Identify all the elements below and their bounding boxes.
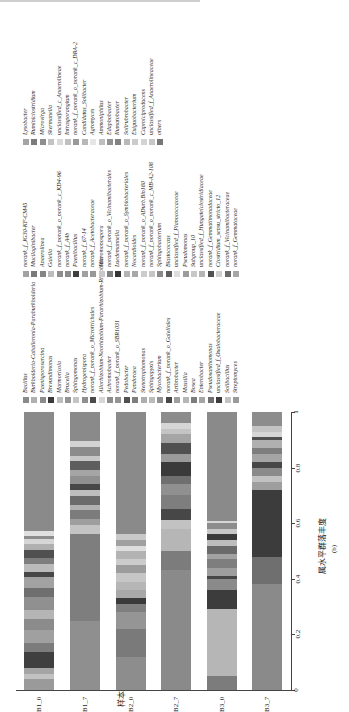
legend-swatch	[141, 139, 147, 145]
legend-label: Paenisporosarcina	[38, 348, 46, 393]
legend-label: unclassified_f_Planococcaceae	[172, 191, 180, 267]
bar-segment	[161, 434, 191, 442]
legend-swatch	[48, 397, 54, 403]
legend-label: Blastococcus	[164, 235, 172, 267]
bar-segment	[70, 447, 100, 456]
legend-swatch	[40, 139, 46, 145]
bar-segment	[24, 630, 54, 644]
legend-swatch	[233, 397, 239, 403]
legend-swatch	[23, 139, 29, 145]
legend-label: Paenibacillus	[71, 234, 79, 267]
bar-segment	[161, 529, 191, 551]
legend-label: norank_f_norank_o_Microtrichales	[88, 307, 96, 393]
legend-swatch	[73, 271, 79, 277]
legend-swatch	[31, 397, 37, 403]
legend-label: norank_f_norank_o_Vicinamibacterales	[105, 170, 113, 267]
sample-label: B2_0	[127, 697, 135, 712]
legend-label: norank_f_A4b	[63, 233, 71, 267]
axis-tick-label: 0.4	[294, 574, 302, 583]
sample-label: B1_0	[35, 697, 43, 712]
legend-label: Agromyces	[88, 109, 96, 135]
legend-label: Streptomyces	[231, 361, 239, 393]
legend-label: norank_f_67-14	[80, 228, 88, 267]
legend-swatch	[225, 397, 231, 403]
bar-segment	[207, 559, 237, 567]
bar-segment	[207, 590, 237, 609]
legend-label: Pseudoxanthomonas	[206, 343, 214, 393]
legend-label: norank_f_norank_o_ADurb.Bin180	[139, 181, 147, 267]
bar-segment	[24, 652, 54, 669]
legend-swatch	[48, 271, 54, 277]
legend-swatch	[82, 139, 88, 145]
bar-segment	[252, 440, 282, 448]
sample-label: B1_7	[81, 697, 89, 712]
bar-segment	[252, 490, 282, 557]
legend-label: norank_f_Vicinamibacteraceae	[223, 192, 231, 267]
legend-swatch	[65, 271, 71, 277]
legend-label: Intrasporangium	[63, 94, 71, 135]
legend-label: Ammoniphilus	[97, 100, 105, 135]
bar-segment	[252, 584, 282, 690]
legend-swatch	[65, 139, 71, 145]
bar-segment	[116, 565, 146, 573]
legend-label: norank_f_JG30-KF-CM45	[21, 203, 29, 267]
bar-segment	[252, 412, 282, 426]
legend-label: norank_f_norank_o_norank_c_MB-A2-108	[147, 162, 155, 267]
legend-label: Brucella	[63, 372, 71, 393]
bar-segment	[24, 619, 54, 630]
bar-segment	[70, 525, 100, 534]
axis-tick-label: 0.6	[294, 519, 302, 528]
bar-segment	[70, 621, 100, 691]
legend-label: Mucilaginibacter	[29, 225, 37, 267]
legend-swatch	[115, 271, 121, 277]
bar-segment	[116, 412, 146, 534]
bar-segment	[207, 546, 237, 554]
sample-label: B2_7	[172, 697, 180, 712]
bar-segment	[161, 570, 191, 690]
legend-swatch	[23, 397, 29, 403]
bar-segment	[116, 657, 146, 690]
legend-label: unclassified_f_Hungateiclostridiaceae	[197, 174, 205, 267]
legend-swatch	[99, 271, 105, 277]
legend-swatch	[208, 271, 214, 277]
legend-swatch	[149, 139, 155, 145]
legend-swatch	[115, 397, 121, 403]
bar-segment	[70, 534, 100, 621]
legend-swatch	[132, 397, 138, 403]
bar-segment	[207, 676, 237, 690]
legend-label: Stenotrophomonas	[139, 348, 147, 393]
legend-label: Sphingobacterium	[155, 223, 163, 267]
legend-label: Brevundimonas	[46, 356, 54, 393]
legend-swatch	[174, 397, 180, 403]
bar-segment	[252, 454, 282, 462]
legend-swatch	[65, 397, 71, 403]
legend-label: norank_f_Gemmataceae	[231, 208, 239, 267]
legend-swatch	[141, 397, 147, 403]
bar-segment	[116, 582, 146, 590]
legend-swatch	[199, 271, 205, 277]
bar-segment	[161, 495, 191, 509]
abundance-axis-line	[291, 412, 292, 690]
legend-swatch	[31, 271, 37, 277]
legend-label: unclassified_f_Oxalobacteraceae	[214, 313, 222, 393]
legend-swatch	[183, 397, 189, 403]
bar-segment	[161, 484, 191, 495]
stacked-bar-b3-7	[252, 412, 282, 690]
legend-label: Ilumatobacter	[113, 101, 121, 135]
legend-swatch	[149, 271, 155, 277]
bar-segment	[161, 412, 191, 423]
legend-swatch	[166, 271, 172, 277]
legend-label: Arthrobacter	[172, 362, 180, 393]
sample-label: B3_0	[218, 697, 226, 712]
bar-segment	[207, 579, 237, 590]
legend-label: Subgroup_10	[189, 235, 197, 267]
legend-swatch	[99, 397, 105, 403]
bar-segment	[252, 482, 282, 490]
legend-label: Bacillus	[21, 373, 29, 393]
bar-segment	[70, 461, 100, 470]
legend-swatch	[73, 139, 79, 145]
top-border	[0, 0, 200, 2]
legend-label: Marmoricola	[55, 361, 63, 393]
legend-swatch	[157, 271, 163, 277]
legend-swatch	[191, 271, 197, 277]
